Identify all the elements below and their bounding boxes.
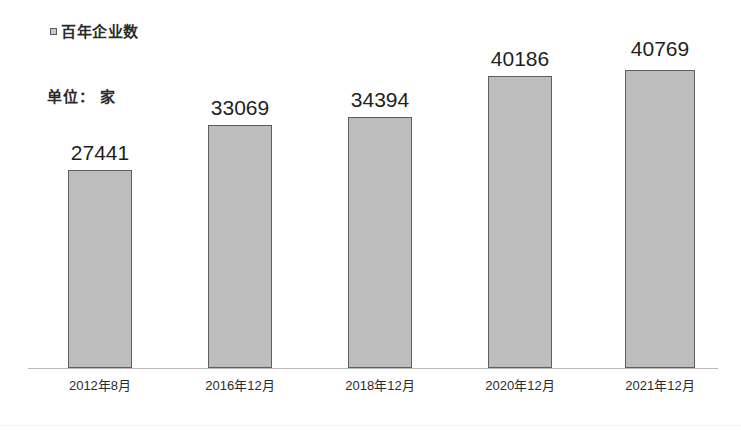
x-axis-tick-label: 2020年12月	[460, 379, 580, 392]
bar-value-label: 33069	[190, 97, 290, 118]
bar-column	[488, 76, 552, 368]
bar-column	[625, 70, 695, 368]
bar-chart-figure: 百年企业数 单位： 家 27441 2012年8月 33069 2016年12月…	[0, 0, 741, 430]
bar-value-label: 27441	[50, 142, 150, 163]
bar-value-label: 40186	[470, 48, 570, 69]
bar-column	[208, 125, 272, 368]
scan-artifact-line	[0, 425, 741, 426]
x-axis-tick-label: 2012年8月	[40, 379, 160, 392]
bar-column	[348, 117, 412, 368]
bar-value-label: 40769	[610, 38, 710, 59]
x-axis-line	[28, 368, 718, 369]
bar-value-label: 34394	[330, 89, 430, 110]
x-axis-tick-label: 2016年12月	[180, 379, 300, 392]
x-axis-tick-label: 2021年12月	[600, 379, 720, 392]
plot-area: 27441 2012年8月 33069 2016年12月 34394 2018年…	[0, 0, 741, 430]
bar-column	[68, 170, 132, 368]
x-axis-tick-label: 2018年12月	[320, 379, 440, 392]
